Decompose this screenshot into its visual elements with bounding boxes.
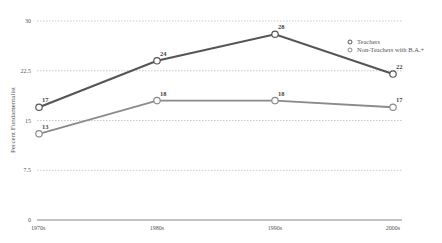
legend-item: Non-Teachers with B.A.+ [348,46,424,53]
x-tick-label: 2000s [386,225,401,231]
y-tick-label: 22.5 [21,68,32,74]
data-label: 18 [160,90,167,97]
legend-item: Teachers [348,38,380,45]
data-series: 1724282213181817 [36,23,403,137]
legend: TeachersNon-Teachers with B.A.+ [348,38,424,53]
legend-label: Teachers [357,38,380,45]
data-point-marker [272,31,278,37]
legend-label: Non-Teachers with B.A.+ [357,46,424,53]
gridlines [37,21,402,220]
series-line [39,101,393,134]
data-point-marker [36,104,42,110]
y-tick-label: 30 [25,18,31,24]
data-label: 22 [396,63,403,70]
data-label: 28 [278,23,285,30]
x-tick-label: 1990s [268,225,283,231]
data-point-marker [36,131,42,137]
y-tick-label: 0 [28,217,31,223]
data-point-marker [154,97,160,103]
data-point-marker [390,104,396,110]
y-axis-ticks: 07.51522.530 [21,18,32,223]
series-teachers: 17242822 [36,23,403,110]
data-label: 17 [42,96,49,103]
line-chart: 07.51522.530 1970s1980s1990s2000s Percen… [0,0,442,243]
data-label: 13 [42,123,49,130]
y-tick-label: 15 [25,118,31,124]
data-point-marker [154,58,160,64]
data-label: 17 [396,96,403,103]
legend-marker-icon [348,48,352,52]
data-point-marker [272,97,278,103]
data-point-marker [390,71,396,77]
x-tick-label: 1980s [150,225,165,231]
x-tick-label: 1970s [31,225,46,231]
legend-marker-icon [348,40,352,44]
series-non-teachers: 13181817 [36,90,403,137]
y-axis-label: Percent Fundamentalist [9,87,17,153]
data-label: 24 [160,50,167,57]
x-axis-ticks: 1970s1980s1990s2000s [31,225,401,231]
data-label: 18 [278,90,285,97]
y-tick-label: 7.5 [24,167,32,173]
